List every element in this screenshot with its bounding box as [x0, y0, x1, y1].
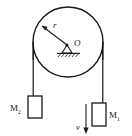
diagram-canvas: r O M2 M1 v	[0, 0, 132, 136]
pulley-wheel	[33, 7, 103, 77]
mass-label-right: M1	[109, 110, 120, 122]
mass-label-left: M2	[10, 103, 21, 115]
mass-label-left-base: M	[10, 103, 18, 113]
ground-hatching	[58, 54, 79, 57]
mass-box-right	[92, 103, 106, 126]
pulley-center-label: O	[74, 38, 81, 48]
mass-label-left-subscript: 2	[18, 109, 21, 115]
physics-diagram-figure: r O M2 M1 v	[0, 0, 132, 136]
velocity-label: v	[76, 122, 80, 132]
velocity-arrowhead	[83, 128, 88, 135]
mass-label-right-subscript: 1	[117, 116, 120, 122]
radius-label: r	[53, 20, 57, 30]
mass-box-left	[28, 96, 42, 118]
mass-label-right-base: M	[109, 110, 117, 120]
